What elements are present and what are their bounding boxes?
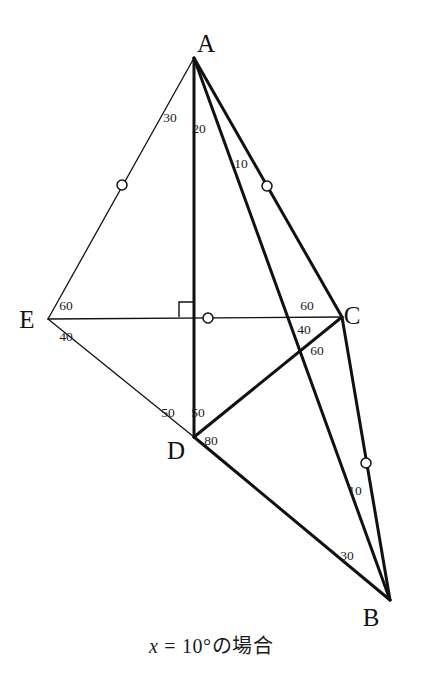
vertex-label-C: C (344, 302, 361, 329)
angle-label-CEB: 40 (59, 329, 73, 344)
angle-label-ECD: 40 (297, 322, 311, 337)
vertex-label-D: D (167, 437, 185, 464)
tick-circle-on-EC (203, 313, 213, 323)
angle-label-AEC: 60 (59, 298, 73, 313)
segment-DC (194, 317, 342, 437)
tick-circle-on-AC (262, 181, 272, 191)
angle-label-CAB: 10 (234, 156, 248, 171)
segments-group (48, 58, 390, 600)
angle-label-ABD: 30 (340, 548, 354, 563)
vertex-label-A: A (197, 30, 215, 57)
angle-label-DAE: 30 (163, 110, 177, 125)
right-angle-group (179, 302, 194, 317)
caption-variable: x (149, 635, 158, 657)
angle-label-DAC: 20 (192, 121, 206, 136)
angle-label-ADC: 50 (191, 405, 205, 420)
angle-label-CBA: 10 (348, 483, 362, 498)
tick-circle-on-AE (117, 180, 127, 190)
caption-value: 10° (182, 635, 212, 657)
caption-equals: = (164, 635, 176, 657)
figure-caption: x=10°の場合 (0, 630, 422, 659)
angle-label-EDA: 50 (161, 405, 175, 420)
right-angle-marker-at-foot (179, 302, 194, 317)
angle-label-CDB: 80 (204, 433, 218, 448)
geometry-diagram-canvas: 30201060406040605050801030 AECDB (0, 0, 422, 690)
tick-circle-on-CB (361, 458, 371, 468)
vertex-label-B: B (363, 604, 380, 631)
angle-label-ACE: 60 (300, 298, 314, 313)
geometry-figure: 30201060406040605050801030 AECDB x=10°の場… (0, 0, 422, 690)
vertex-label-E: E (19, 306, 34, 333)
angle-label-DCB: 60 (310, 343, 324, 358)
caption-suffix: の場合 (212, 635, 274, 657)
